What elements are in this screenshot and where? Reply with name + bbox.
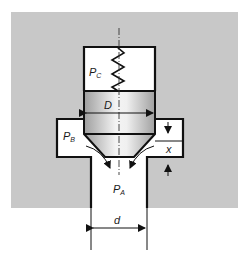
label-x: x (165, 143, 172, 155)
label-d: d (114, 214, 121, 226)
label-D: D (104, 99, 112, 111)
poppet-piston (84, 91, 155, 157)
valve-diagram: PC PB PA D d x (0, 0, 249, 262)
